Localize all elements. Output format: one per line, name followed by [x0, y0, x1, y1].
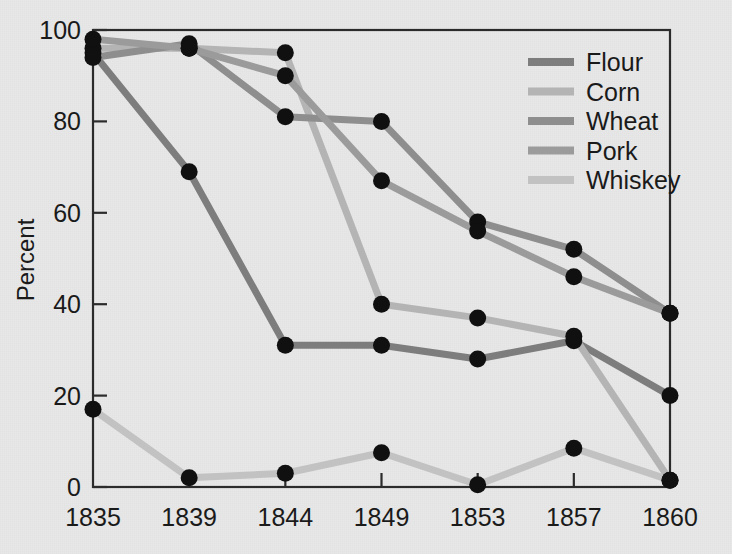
legend-label-wheat: Wheat	[586, 107, 658, 135]
data-point-flour-1853	[469, 351, 486, 368]
data-point-corn-1853	[469, 309, 486, 326]
series-lines-group	[93, 39, 670, 485]
data-point-whiskey-1853	[469, 476, 486, 493]
data-point-wheat-1844	[277, 108, 294, 125]
y-axis-tick-labels: 020406080100	[39, 16, 81, 501]
x-tick-label-1839: 1839	[161, 503, 217, 531]
y-tick-label-0: 0	[67, 473, 81, 501]
data-point-corn-1849	[373, 296, 390, 313]
data-point-flour-1849	[373, 337, 390, 354]
data-point-pork-1853	[469, 223, 486, 240]
legend: FlourCornWheatPorkWhiskey	[528, 48, 681, 194]
data-point-pork-1839	[181, 40, 198, 57]
y-tick-label-40: 40	[53, 290, 81, 318]
legend-label-pork: Pork	[586, 137, 638, 165]
data-point-pork-1857	[565, 268, 582, 285]
line-chart: 020406080100 183518391844184918531857186…	[0, 0, 732, 554]
legend-label-whiskey: Whiskey	[586, 166, 681, 194]
x-tick-label-1857: 1857	[546, 503, 602, 531]
x-tick-label-1849: 1849	[354, 503, 410, 531]
data-point-pork-1860	[662, 305, 679, 322]
data-point-pork-1835	[85, 31, 102, 48]
data-point-flour-1844	[277, 337, 294, 354]
y-tick-label-80: 80	[53, 107, 81, 135]
y-tick-label-100: 100	[39, 16, 81, 44]
legend-label-corn: Corn	[586, 78, 640, 106]
chart-container: 020406080100 183518391844184918531857186…	[0, 0, 732, 554]
data-point-whiskey-1857	[565, 440, 582, 457]
y-tick-label-20: 20	[53, 382, 81, 410]
data-point-corn-1857	[565, 328, 582, 345]
x-tick-label-1860: 1860	[642, 503, 698, 531]
data-point-corn-1844	[277, 44, 294, 61]
legend-label-flour: Flour	[586, 48, 643, 76]
data-point-wheat-1849	[373, 113, 390, 130]
data-point-flour-1860	[662, 387, 679, 404]
data-point-wheat-1835	[85, 49, 102, 66]
x-tick-label-1835: 1835	[65, 503, 121, 531]
x-axis-tick-labels: 1835183918441849185318571860	[65, 503, 698, 531]
data-point-wheat-1857	[565, 241, 582, 258]
data-point-whiskey-1860	[662, 472, 679, 489]
y-axis-title: Percent	[12, 218, 39, 301]
x-tick-label-1844: 1844	[258, 503, 314, 531]
data-point-whiskey-1835	[85, 401, 102, 418]
data-point-whiskey-1839	[181, 469, 198, 486]
data-point-whiskey-1849	[373, 444, 390, 461]
data-point-whiskey-1844	[277, 465, 294, 482]
data-point-flour-1839	[181, 163, 198, 180]
x-tick-label-1853: 1853	[450, 503, 506, 531]
data-point-pork-1844	[277, 67, 294, 84]
y-tick-label-60: 60	[53, 199, 81, 227]
data-point-pork-1849	[373, 172, 390, 189]
